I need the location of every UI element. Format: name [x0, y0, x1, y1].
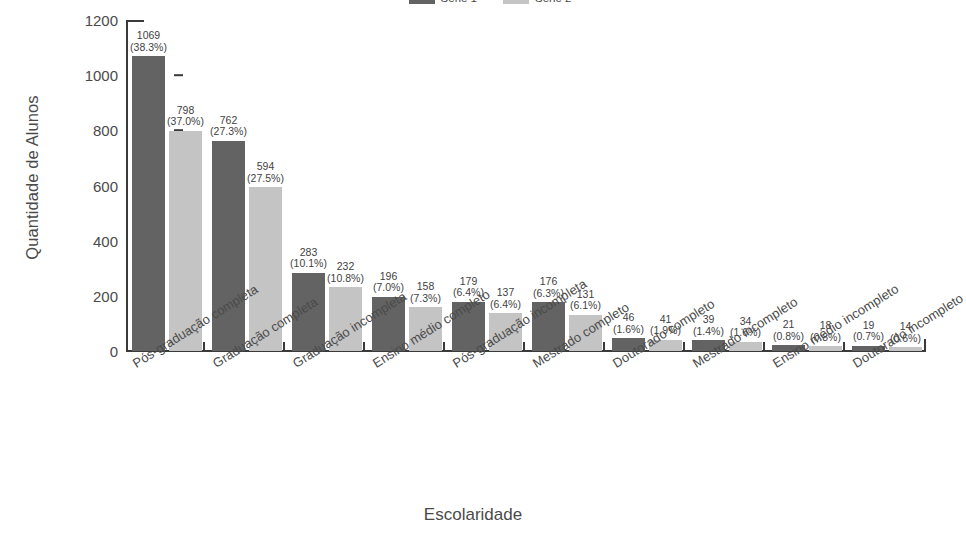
x-axis-title: Escolaridade	[0, 505, 946, 525]
x-axis-label: Pós-graduação incompleta	[450, 276, 589, 371]
x-axis-label: Pós-graduação completa	[130, 281, 261, 370]
